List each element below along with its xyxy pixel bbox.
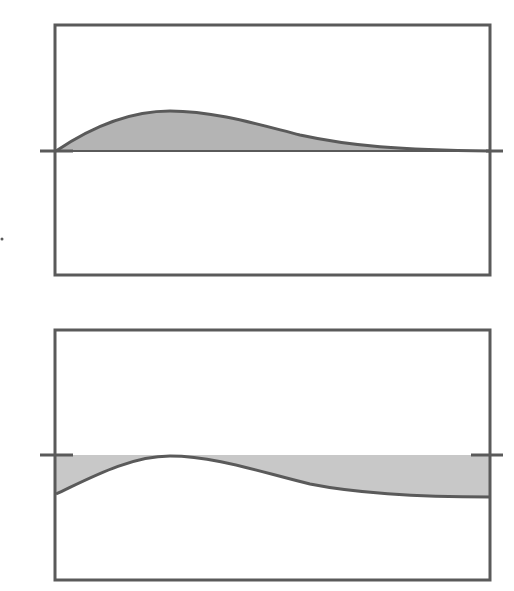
top-panel	[40, 25, 503, 275]
diagram-canvas	[0, 0, 514, 591]
bottom-panel	[40, 330, 503, 580]
margin-dot	[1, 238, 4, 241]
top-shaded-area	[56, 111, 490, 151]
